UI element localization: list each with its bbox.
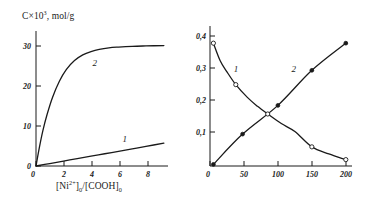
two-panel-figure: C×103, mol/g [Ni2+]0/[COOH]0 0 10 20 30 xyxy=(0,0,367,204)
x-tick-label: 4 xyxy=(89,170,94,179)
curve-label-2-left: 2 xyxy=(92,58,97,68)
y-tick-label: 20 xyxy=(22,82,31,91)
y-ticks-right: 0,1 0,2 0,3 0,4 xyxy=(196,32,215,137)
data-curve-2-right xyxy=(213,43,345,164)
x-tick-label: 2 xyxy=(61,170,66,179)
x-tick-label: 0 xyxy=(31,170,35,179)
y-tick-label: 0,1 xyxy=(196,128,206,137)
data-point xyxy=(211,41,215,45)
curve-label-1-left: 1 xyxy=(123,134,128,144)
x-tick-label: 8 xyxy=(146,170,150,179)
data-point xyxy=(343,41,347,45)
x-tick-label: 100 xyxy=(272,170,284,179)
data-point xyxy=(309,145,313,149)
y-tick-label: 0,3 xyxy=(196,64,206,73)
data-point xyxy=(343,158,347,162)
x-tick-label: 6 xyxy=(118,170,122,179)
y-tick-label: 0,4 xyxy=(196,32,206,41)
data-point xyxy=(233,83,237,87)
chart-panel-right: C, μmol τ, h 0,1 0,2 0,3 0,4 xyxy=(184,0,367,204)
data-point xyxy=(276,103,280,107)
plot-area-right: 0,1 0,2 0,3 0,4 0 50 100 150 200 xyxy=(184,0,367,204)
curve-label-2-right: 2 xyxy=(291,64,296,74)
data-curve-1-left xyxy=(36,143,164,166)
x-tick-label: 200 xyxy=(339,170,352,179)
data-curve-2-left xyxy=(36,46,164,166)
y-tick-label: 30 xyxy=(22,42,31,51)
data-curve-1-right xyxy=(213,43,345,159)
x-ticks-right: 0 50 100 150 200 xyxy=(206,161,352,179)
plot-area-left: 0 10 20 30 0 2 4 6 8 1 2 xyxy=(0,0,183,204)
x-tick-label: 0 xyxy=(206,170,210,179)
chart-panel-left: C×103, mol/g [Ni2+]0/[COOH]0 0 10 20 30 xyxy=(0,0,184,204)
data-point xyxy=(265,112,269,116)
y-tick-label: 0,2 xyxy=(196,96,206,105)
data-point xyxy=(211,163,215,167)
data-markers-1-right xyxy=(211,41,348,162)
x-tick-label: 150 xyxy=(306,170,318,179)
data-point xyxy=(240,132,244,136)
curve-label-1-right: 1 xyxy=(233,64,238,74)
x-tick-label: 50 xyxy=(240,170,248,179)
data-point xyxy=(309,68,313,72)
y-tick-label: 10 xyxy=(23,122,31,131)
